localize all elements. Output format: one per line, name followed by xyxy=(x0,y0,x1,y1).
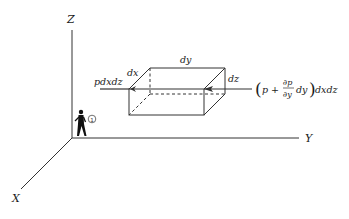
x-axis xyxy=(21,138,72,189)
right-force-tail: dxdz xyxy=(315,84,339,95)
fluid-element-diagram: Z Y X dy dx dz pdxdz ( p + ∂p ∂y dy xyxy=(0,0,349,219)
svg-text:1: 1 xyxy=(90,117,94,123)
z-axis-label: Z xyxy=(66,13,75,26)
left-force-label: pdxdz xyxy=(94,76,124,87)
right-force-label: ( p + ∂p ∂y dy ) dxdz xyxy=(255,78,339,99)
dy-label: dy xyxy=(180,54,192,65)
fluid-element-box xyxy=(129,68,225,115)
dz-label: dz xyxy=(228,73,240,84)
observer-marker: 1 xyxy=(88,115,96,123)
x-axis-label: X xyxy=(11,192,21,205)
right-pressure-arrow xyxy=(204,86,252,92)
observer-figure-icon xyxy=(75,110,87,136)
right-force-frac-den: ∂y xyxy=(283,90,292,99)
right-face-edges xyxy=(204,68,225,115)
dx-label: dx xyxy=(127,67,139,78)
y-axis-label: Y xyxy=(305,132,314,145)
top-face-edges xyxy=(129,68,225,89)
front-face xyxy=(129,89,204,115)
right-force-dy: dy xyxy=(296,84,308,95)
right-force-p: p + xyxy=(262,84,279,95)
right-force-open-paren: ( xyxy=(255,79,262,99)
right-force-frac-num: ∂p xyxy=(283,78,292,87)
